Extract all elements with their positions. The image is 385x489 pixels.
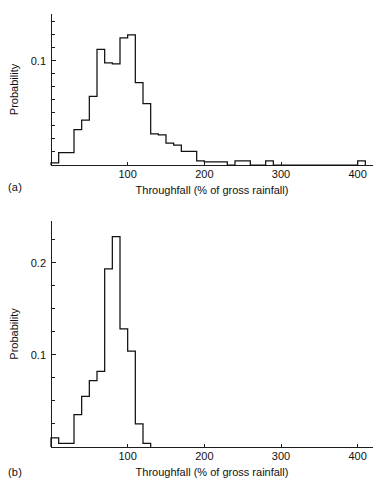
y-axis-title: Probability bbox=[8, 308, 20, 360]
panel-b-label: (b) bbox=[8, 466, 22, 478]
x-tick-label: 300 bbox=[272, 450, 290, 462]
y-tick-label: 0.1 bbox=[31, 55, 46, 67]
panel-a-label: (a) bbox=[8, 181, 22, 193]
x-axis-title: Throughfall (% of gross rainfall) bbox=[136, 184, 289, 196]
histogram-a-plot: 1002003004000.1Throughfall (% of gross r… bbox=[0, 0, 385, 200]
figure-container: 1002003004000.1Throughfall (% of gross r… bbox=[0, 0, 385, 489]
y-tick-label: 0.1 bbox=[31, 349, 46, 361]
panel-a: 1002003004000.1Throughfall (% of gross r… bbox=[0, 0, 385, 200]
y-tick-label: 0.2 bbox=[31, 257, 46, 269]
panel-b: 1002003004000.10.2Throughfall (% of gros… bbox=[0, 205, 385, 489]
x-tick-label: 100 bbox=[118, 168, 136, 180]
x-tick-label: 400 bbox=[348, 450, 366, 462]
y-axis-title: Probability bbox=[8, 63, 20, 115]
x-axis-title: Throughfall (% of gross rainfall) bbox=[136, 466, 289, 478]
x-tick-label: 100 bbox=[118, 450, 136, 462]
histogram-outline bbox=[51, 237, 151, 447]
x-tick-label: 400 bbox=[348, 168, 366, 180]
histogram-outline bbox=[51, 35, 365, 165]
x-tick-label: 300 bbox=[272, 168, 290, 180]
histogram-b-plot: 1002003004000.10.2Throughfall (% of gros… bbox=[0, 205, 385, 489]
x-tick-label: 200 bbox=[195, 168, 213, 180]
x-tick-label: 200 bbox=[195, 450, 213, 462]
